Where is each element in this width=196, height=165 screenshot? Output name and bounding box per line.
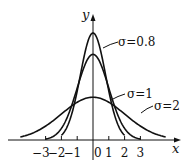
x-tick-label: −1 <box>63 146 81 160</box>
x-tick-labels: −3−2−10123 <box>32 146 144 160</box>
x-tick-label: 1 <box>105 146 113 160</box>
y-axis-label: y <box>81 7 90 22</box>
label-sigma-08: σ=0.8 <box>118 35 155 49</box>
label-sigma-1: σ=1 <box>127 87 153 101</box>
x-tick-label: 2 <box>121 146 129 160</box>
leader-sigma-1 <box>111 94 125 100</box>
leader-sigma-2 <box>141 106 153 113</box>
leader-sigma-08 <box>103 42 118 48</box>
label-sigma-2: σ=2 <box>154 99 180 113</box>
y-axis-arrow-icon <box>91 14 96 21</box>
x-tick-label: 3 <box>137 146 145 160</box>
x-axis-label: x <box>172 141 180 156</box>
x-tick-label: 0 <box>94 146 102 160</box>
normal-distribution-chart: −3−2−10123 x y σ=0.8 σ=1 σ=2 <box>0 0 196 165</box>
